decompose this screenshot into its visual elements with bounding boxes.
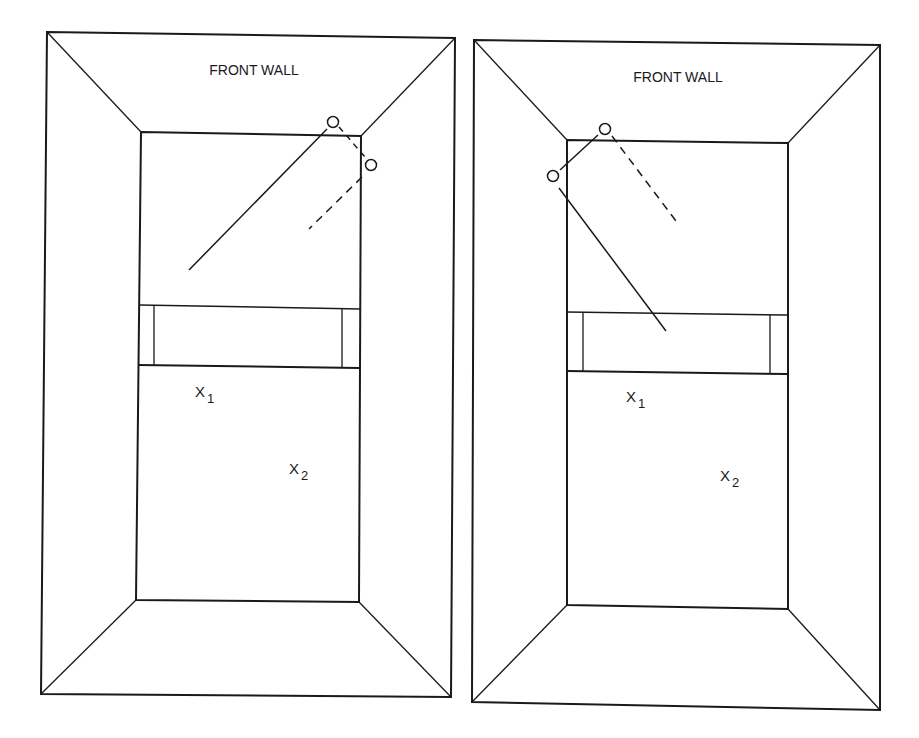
position-x1-label: X1: [195, 383, 214, 406]
position-x2-label: X2: [289, 460, 308, 483]
ball-path-solid: [189, 129, 327, 270]
ball-path-dashed: [612, 136, 679, 225]
front-wall-label: FRONT WALL: [633, 69, 723, 85]
bounce-point-side-wall: [366, 160, 377, 171]
perspective-line-br: [788, 609, 880, 710]
bounce-point-side-wall: [548, 171, 559, 182]
perspective-line-bl: [41, 600, 136, 694]
ball-path-solid: [559, 188, 666, 331]
outer-frame: [41, 32, 455, 697]
court-diagram: FRONT WALL X1 X2 FRONT WALL X1 X2: [0, 0, 919, 738]
perspective-line-tr: [788, 45, 880, 143]
service-line: [138, 365, 359, 368]
perspective-line-tl: [474, 40, 567, 140]
front-wall-label: FRONT WALL: [209, 62, 299, 78]
position-x2-label: X2: [720, 467, 739, 490]
ball-path-dashed-2: [309, 177, 362, 229]
right-court-panel: [472, 40, 880, 710]
perspective-line-bl: [472, 605, 567, 702]
bounce-point-front-wall: [600, 124, 611, 135]
perspective-line-br: [359, 602, 451, 697]
left-court-panel: [41, 32, 455, 697]
position-x1-label: X1: [626, 388, 645, 411]
perspective-line-tl: [47, 32, 141, 132]
service-line-short: [139, 305, 360, 309]
service-line: [567, 371, 787, 374]
perspective-line-tr: [361, 38, 455, 136]
service-line-short: [567, 312, 787, 315]
bounce-point-front-wall: [328, 117, 339, 128]
